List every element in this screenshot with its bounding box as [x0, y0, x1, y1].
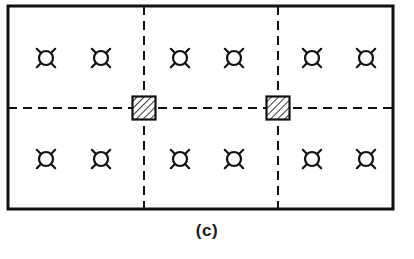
anchor-bolt-icon-leg: [106, 164, 110, 168]
anchor-bolt-icon-leg: [357, 164, 361, 168]
anchor-bolt-icon-leg: [37, 164, 41, 168]
hatched-column-left-hatch: [133, 97, 156, 120]
anchor-bolt-icon-leg: [171, 150, 175, 154]
anchor-bolt-icon-leg: [239, 150, 243, 154]
anchor-bolt-icon-leg: [51, 164, 55, 168]
anchor-bolt-icon-leg: [51, 150, 55, 154]
anchor-bolt-icon: [357, 150, 375, 168]
anchor-bolt-icon-leg: [106, 63, 110, 67]
anchor-bolt-icon: [225, 150, 243, 168]
anchor-bolt-icon-leg: [357, 150, 361, 154]
anchor-bolt-icon-leg: [239, 164, 243, 168]
anchor-bolt-icon: [92, 150, 110, 168]
anchor-bolt-icon: [37, 49, 55, 67]
anchor-bolt-icon-leg: [303, 63, 307, 67]
anchor-bolt-icon-leg: [303, 150, 307, 154]
anchor-bolt-icon-leg: [225, 150, 229, 154]
anchor-bolt-icon-leg: [317, 49, 321, 53]
anchor-bolt-icon-leg: [185, 49, 189, 53]
hatched-column-right: [267, 97, 290, 120]
anchor-bolt-icon-leg: [171, 164, 175, 168]
anchor-bolt-icon: [357, 49, 375, 67]
anchor-bolt-icon: [171, 49, 189, 67]
anchor-bolt-icon-leg: [225, 164, 229, 168]
hatched-column-left: [133, 97, 156, 120]
anchor-bolt-icon-leg: [51, 63, 55, 67]
anchor-bolt-icon-leg: [357, 63, 361, 67]
anchor-bolt-icon-leg: [106, 150, 110, 154]
figure-caption: (c): [0, 222, 414, 239]
anchor-bolt-icon-leg: [92, 63, 96, 67]
anchor-bolt-icon-leg: [185, 63, 189, 67]
anchor-bolt-icon-leg: [371, 164, 375, 168]
anchor-bolt-icon-leg: [92, 150, 96, 154]
anchor-bolt-icon-leg: [92, 49, 96, 53]
anchor-bolt-icon-leg: [51, 49, 55, 53]
figure-container: (c): [0, 0, 414, 259]
centerlines-group: [8, 6, 393, 209]
hatched-column-right-hatch: [267, 97, 290, 120]
anchor-bolt-icon-leg: [185, 164, 189, 168]
anchor-bolt-icon-leg: [317, 164, 321, 168]
anchor-bolt-icon: [92, 49, 110, 67]
anchor-bolt-icon-leg: [37, 63, 41, 67]
anchor-bolt-icon-leg: [317, 63, 321, 67]
anchor-bolt-icon: [303, 49, 321, 67]
slab-outline: [8, 6, 393, 209]
slab-outline-rect: [8, 6, 393, 209]
anchor-bolt-icon-leg: [225, 63, 229, 67]
anchor-bolt-icon-leg: [185, 150, 189, 154]
anchor-bolt-icon-leg: [225, 49, 229, 53]
anchor-bolt-icon-leg: [357, 49, 361, 53]
anchor-bolt-icon: [171, 150, 189, 168]
anchor-bolt-icon-leg: [37, 150, 41, 154]
anchor-bolt-icon: [303, 150, 321, 168]
anchor-bolt-icon-leg: [303, 164, 307, 168]
anchor-bolt-icon-leg: [303, 49, 307, 53]
anchor-bolt-icon: [225, 49, 243, 67]
anchor-bolt-icon-leg: [371, 49, 375, 53]
anchor-bolt-icon-leg: [171, 63, 175, 67]
anchor-bolt-icon-leg: [171, 49, 175, 53]
anchor-bolt-icon-leg: [92, 164, 96, 168]
anchor-bolt-icon-leg: [239, 49, 243, 53]
anchor-bolt-icon: [37, 150, 55, 168]
anchor-bolt-icon-leg: [371, 150, 375, 154]
anchor-bolt-icon-leg: [317, 150, 321, 154]
anchor-bolt-icon-leg: [37, 49, 41, 53]
anchor-bolt-icon-leg: [239, 63, 243, 67]
anchor-bolt-icon-leg: [106, 49, 110, 53]
anchor-bolt-icon-leg: [371, 63, 375, 67]
